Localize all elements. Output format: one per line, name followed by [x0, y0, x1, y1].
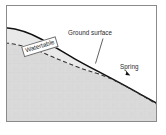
spring-label: Spring	[120, 64, 139, 70]
watertable-spring-diagram: Ground surface Spring Watertable	[0, 0, 166, 135]
diagram-canvas	[0, 0, 166, 135]
ground-surface-label: Ground surface	[68, 30, 112, 36]
